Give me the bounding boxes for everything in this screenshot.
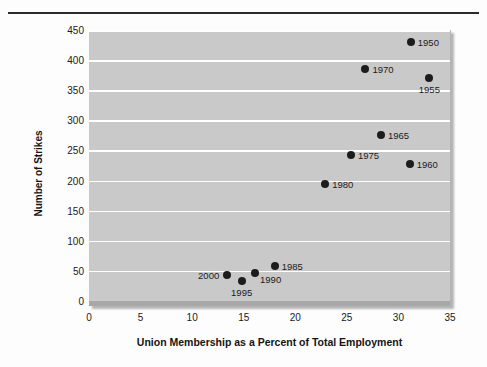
chart-page: Number of Strikes 0501001502002503003504… <box>0 0 487 367</box>
y-tick-label: 100 <box>2 235 84 246</box>
x-axis-title: Union Membership as a Percent of Total E… <box>89 336 450 348</box>
data-point-1955[interactable] <box>425 74 433 82</box>
x-tick-label: 25 <box>341 312 352 323</box>
x-tick-label: 30 <box>393 312 404 323</box>
x-tick-label: 35 <box>444 312 455 323</box>
data-point-1960[interactable] <box>406 160 414 168</box>
y-tick-label: 300 <box>2 115 84 126</box>
data-point-1995[interactable] <box>238 277 246 285</box>
x-axis-tick-labels: 05101520253035 <box>0 312 487 328</box>
data-point-label-1975: 1975 <box>358 150 379 161</box>
x-tick-label: 0 <box>86 312 92 323</box>
y-tick-label: 200 <box>2 175 84 186</box>
data-point-label-1960: 1960 <box>417 159 438 170</box>
data-point-label-1995: 1995 <box>231 287 252 298</box>
data-point-1980[interactable] <box>321 180 329 188</box>
x-tick-label: 5 <box>138 312 144 323</box>
y-tick-label: 150 <box>2 205 84 216</box>
y-tick-label: 250 <box>2 145 84 156</box>
data-point-label-1950: 1950 <box>418 37 439 48</box>
data-point-1970[interactable] <box>361 65 369 73</box>
x-tick-label: 10 <box>187 312 198 323</box>
y-tick-label: 450 <box>2 25 84 36</box>
y-tick-label: 400 <box>2 55 84 66</box>
data-point-label-1955: 1955 <box>419 84 440 95</box>
data-point-1950[interactable] <box>407 38 415 46</box>
data-point-label-1990: 1990 <box>260 274 281 285</box>
data-point-label-1965: 1965 <box>388 130 409 141</box>
x-tick-label: 20 <box>290 312 301 323</box>
data-point-1965[interactable] <box>377 131 385 139</box>
y-tick-label: 350 <box>2 85 84 96</box>
x-tick-label: 15 <box>238 312 249 323</box>
top-divider-rule <box>8 12 479 14</box>
data-point-2000[interactable] <box>223 271 231 279</box>
y-axis-tick-labels: 050100150200250300350400450 <box>0 30 84 306</box>
y-tick-label: 50 <box>2 265 84 276</box>
y-tick-label: 0 <box>2 296 84 307</box>
data-points-layer: 1950195519601965197019751980198519901995… <box>89 30 450 306</box>
data-point-label-2000: 2000 <box>198 270 219 281</box>
data-point-1985[interactable] <box>271 262 279 270</box>
data-point-1990[interactable] <box>251 269 259 277</box>
data-point-1975[interactable] <box>347 151 355 159</box>
data-point-label-1980: 1980 <box>332 179 353 190</box>
plot-area: 1950195519601965197019751980198519901995… <box>89 30 451 306</box>
data-point-label-1985: 1985 <box>282 261 303 272</box>
data-point-label-1970: 1970 <box>372 64 393 75</box>
